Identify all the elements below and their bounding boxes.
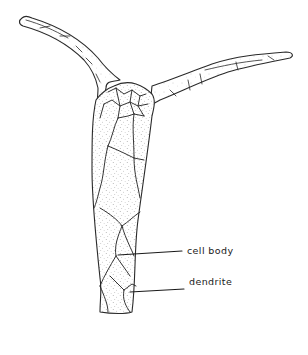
trunk [92, 83, 154, 314]
label-dendrite: dendrite [189, 276, 232, 287]
right-process [150, 52, 292, 106]
label-cell-body: cell body [187, 245, 233, 256]
cell-diagram [0, 0, 308, 355]
dendrite-leader [130, 289, 184, 292]
